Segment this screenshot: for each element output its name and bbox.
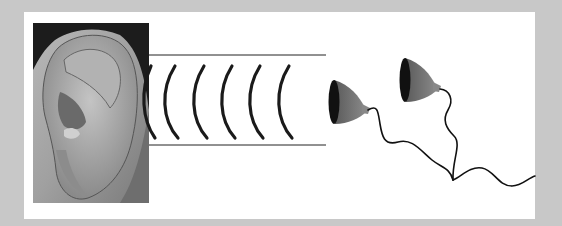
ear-photo (33, 23, 149, 203)
cables (368, 89, 535, 186)
sound-wave-arc (250, 66, 263, 138)
sound-wave-arc (279, 66, 292, 138)
microphone-2 (400, 58, 442, 102)
sound-wave-arc (222, 66, 235, 138)
sound-waves (144, 66, 292, 138)
sound-wave-arc (165, 66, 178, 138)
cable-1 (368, 108, 453, 180)
sound-wave-arc (194, 66, 207, 138)
diagram-scene (0, 0, 562, 226)
microphone-1 (329, 80, 371, 124)
cable-main (453, 168, 535, 186)
